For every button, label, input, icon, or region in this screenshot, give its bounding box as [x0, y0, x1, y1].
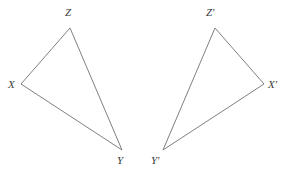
vertex-label-x-prime: X': [268, 79, 277, 90]
vertex-label-y: Y: [117, 155, 123, 166]
vertex-label-y-prime: Y': [151, 155, 159, 166]
vertex-label-z-prime: Z': [206, 7, 214, 18]
triangle-xyz-prime-outline: [163, 28, 264, 150]
triangle-xyz-outline: [21, 28, 122, 150]
geometry-figure: X Y Z X' Y' Z': [0, 0, 287, 172]
vertex-label-z: Z: [65, 7, 71, 18]
vertex-label-x: X: [8, 79, 15, 90]
triangles-svg: [0, 0, 287, 172]
